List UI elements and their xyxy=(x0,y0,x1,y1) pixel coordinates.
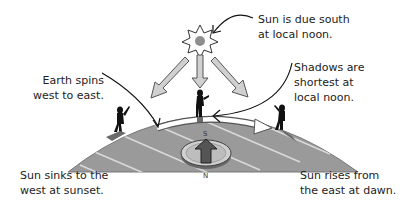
label-line: Sun is due south xyxy=(258,12,350,27)
label-line: at local noon. xyxy=(258,27,350,42)
compass-south-label: S xyxy=(203,130,207,138)
label-sun-sinks: Sun sinks to the west at sunset. xyxy=(20,168,108,198)
label-line: shortest at xyxy=(294,75,364,90)
label-earth-spins: Earth spins west to east. xyxy=(33,73,104,103)
label-line: west to east. xyxy=(33,88,104,103)
label-shadows: Shadows are shortest at local noon. xyxy=(294,60,364,105)
label-line: the east at dawn. xyxy=(300,183,396,198)
label-sun-south: Sun is due south at local noon. xyxy=(258,12,350,42)
compass-icon xyxy=(181,139,231,169)
compass-north-label: N xyxy=(203,172,208,180)
label-line: west at sunset. xyxy=(20,183,108,198)
label-sun-rises: Sun rises from the east at dawn. xyxy=(300,168,396,198)
label-line: local noon. xyxy=(294,90,364,105)
label-line: Shadows are xyxy=(294,60,364,75)
label-line: Sun rises from xyxy=(300,168,396,183)
label-line: Earth spins xyxy=(33,73,104,88)
label-line: Sun sinks to the xyxy=(20,168,108,183)
